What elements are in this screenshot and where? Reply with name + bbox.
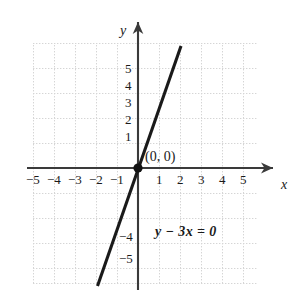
y-tick-label-5: 5 (125, 62, 132, 75)
y-tick-label-neg4: −4 (119, 230, 133, 243)
equation-label: y − 3x = 0 (155, 225, 217, 239)
x-tick-label-5: 5 (240, 173, 247, 186)
y-tick-label-2: 2 (125, 113, 132, 126)
y-tick-label-4: 4 (125, 79, 132, 92)
origin-point-label: (0, 0) (145, 150, 175, 164)
x-tick-label-neg3: −3 (68, 173, 82, 186)
y-tick-label-3: 3 (125, 96, 132, 109)
x-tick-label-neg2: −2 (89, 173, 103, 186)
x-tick-label-neg1: −1 (110, 173, 124, 186)
x-tick-label-4: 4 (219, 173, 226, 186)
y-tick-label-1: 1 (125, 130, 132, 143)
x-tick-label-neg4: −4 (47, 173, 61, 186)
x-tick-label-1: 1 (156, 173, 163, 186)
y-tick-label-neg5: −5 (119, 252, 133, 265)
x-tick-label-neg5: −5 (26, 173, 40, 186)
x-tick-label-2: 2 (177, 173, 184, 186)
y-axis-label: y (120, 24, 126, 38)
x-tick-label-3: 3 (198, 173, 205, 186)
origin-point-marker (133, 163, 142, 172)
x-axis-label: x (281, 178, 287, 192)
graph-figure: y x 5 4 3 2 1 −4 −5 −5 −4 −3 −2 −1 1 2 3… (0, 0, 301, 298)
x-axis (27, 163, 273, 174)
